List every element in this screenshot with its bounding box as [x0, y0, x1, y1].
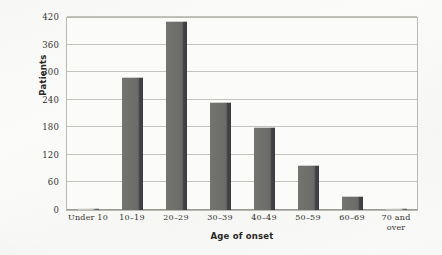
- bar-slot: [110, 17, 154, 210]
- bar-highlight: [122, 77, 143, 78]
- x-tick-label-6: 60–69: [330, 213, 374, 223]
- x-tick-label-3: 30–39: [198, 213, 242, 223]
- bar-highlight: [298, 165, 319, 166]
- bar: [342, 196, 363, 210]
- y-tick-label-420: 420: [42, 12, 59, 22]
- x-tick-label-line: 30–39: [198, 213, 242, 223]
- x-tick-label-line: 50–59: [286, 213, 330, 223]
- bar-slot: [198, 17, 242, 210]
- y-tick-label-180: 180: [42, 122, 59, 132]
- bar-slot: [242, 17, 286, 210]
- bar: [166, 21, 187, 210]
- bar: [122, 77, 143, 210]
- y-axis-title: Patients: [38, 30, 48, 120]
- x-tick-label-line: Under 10: [66, 213, 110, 223]
- y-tick-label-60: 60: [48, 177, 59, 187]
- bar-chart-figure: 060120180240300360420 Patients Under 101…: [0, 0, 442, 255]
- bar-slot: [154, 17, 198, 210]
- bar-highlight: [386, 208, 407, 209]
- x-axis-title: Age of onset: [66, 231, 418, 241]
- x-tick-label-line: 60–69: [330, 213, 374, 223]
- bar-slot: [286, 17, 330, 210]
- x-tick-label-5: 50–59: [286, 213, 330, 223]
- x-tick-label-line: 20–29: [154, 213, 198, 223]
- bar-highlight: [78, 208, 99, 209]
- bar-highlight: [254, 127, 275, 128]
- x-tick-label-line: 70 and: [374, 213, 418, 223]
- x-tick-label-1: 10–19: [110, 213, 154, 223]
- bar: [210, 102, 231, 210]
- y-tick-label-120: 120: [42, 150, 59, 160]
- bar-slot: [374, 17, 418, 210]
- bar: [78, 208, 99, 210]
- bar-highlight: [342, 196, 363, 197]
- bar-highlight: [210, 102, 231, 103]
- x-tick-label-line: 40–49: [242, 213, 286, 223]
- bar-slot: [66, 17, 110, 210]
- bar-slot: [330, 17, 374, 210]
- bar: [386, 208, 407, 210]
- bars-group: [66, 17, 418, 210]
- x-tick-label-0: Under 10: [66, 213, 110, 223]
- x-tick-label-line: 10–19: [110, 213, 154, 223]
- y-axis-ticks: 060120180240300360420: [0, 0, 66, 212]
- x-tick-label-7: 70 andover: [374, 213, 418, 232]
- x-tick-label-4: 40–49: [242, 213, 286, 223]
- x-tick-label-2: 20–29: [154, 213, 198, 223]
- bar-highlight: [166, 21, 187, 22]
- bar: [298, 165, 319, 210]
- bar: [254, 127, 275, 210]
- y-tick-label-0: 0: [53, 205, 59, 215]
